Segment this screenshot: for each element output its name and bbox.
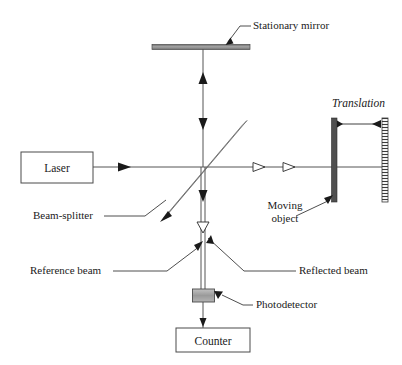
- moving-object-bar: [332, 118, 338, 202]
- interferometer-diagram: Laser Counter Stationary mirror Translat…: [0, 0, 402, 365]
- stationary-mirror-callout: Stationary mirror: [226, 19, 330, 45]
- stationary-mirror-bar: [152, 45, 250, 50]
- arrowhead-stationary-mirror: [226, 38, 234, 46]
- reference-beam-callout: Reference beam: [30, 241, 203, 276]
- stationary-mirror-label: Stationary mirror: [253, 19, 329, 31]
- arrowhead-hollow-reflected: [197, 222, 209, 233]
- counter-label: Counter: [194, 335, 231, 347]
- arrowhead-splitter-tip: [160, 211, 172, 222]
- translation-arrow: [337, 120, 381, 128]
- photodetector-block: [193, 289, 215, 302]
- photodetector-callout: Photodetector: [214, 291, 317, 310]
- diagram-canvas: Laser Counter Stationary mirror Translat…: [0, 0, 402, 365]
- laser-label: Laser: [44, 162, 70, 174]
- photodetector: [193, 289, 215, 302]
- beam-splitter-callout: Beam-splitter: [33, 200, 166, 221]
- reflected-beam-label: Reflected beam: [299, 264, 368, 276]
- arrowhead-translation-left: [337, 121, 343, 128]
- translation-label: Translation: [332, 97, 385, 109]
- moving-object-label-line1: Moving: [268, 199, 303, 211]
- arrowhead-up-to-mirror: [199, 72, 208, 84]
- photodetector-leader-d: [222, 295, 243, 305]
- laser-box: Laser: [21, 152, 93, 183]
- stationary-mirror: [152, 45, 250, 50]
- moving-object-label-line2: object: [272, 212, 299, 224]
- counter-box: Counter: [176, 328, 250, 352]
- beam-splitter-label: Beam-splitter: [33, 209, 93, 221]
- arrowhead-laser-beam: [118, 163, 131, 172]
- reflected-beam-callout: Reflected beam: [206, 235, 368, 276]
- arrowhead-to-counter: [200, 318, 207, 327]
- arrowhead-translation-right: [372, 120, 381, 128]
- beam-splitter-leader-d: [145, 200, 166, 216]
- arrowhead-photodetector: [214, 291, 223, 299]
- arrowhead-measure-beam-1: [253, 163, 265, 172]
- arrowhead-measure-beam-2: [283, 163, 295, 172]
- moving-object-callout: Moving object: [268, 195, 333, 224]
- arrowhead-down-from-mirror: [199, 118, 208, 130]
- reference-beam-label: Reference beam: [30, 264, 102, 276]
- arrowhead-reflected-beam: [206, 235, 214, 244]
- photodetector-label: Photodetector: [256, 298, 317, 310]
- translation-scale-bar: [382, 118, 388, 202]
- arrowhead-down-to-detector: [199, 190, 208, 202]
- reference-beam-leader-d: [167, 246, 200, 271]
- translation-scale: [382, 118, 388, 202]
- moving-object: [332, 118, 338, 202]
